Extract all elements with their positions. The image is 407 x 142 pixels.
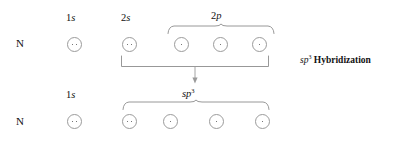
- electron-dot: [72, 44, 74, 46]
- electron-dot: [131, 121, 133, 123]
- orbital-circle-2py: [213, 37, 228, 52]
- orbital-label-1s-bottom-letter: s: [71, 89, 75, 100]
- electron-dot: [131, 44, 133, 46]
- orbital-label-1s-top-letter: s: [71, 12, 75, 23]
- hybridization-caption-word: Hybridization: [311, 55, 370, 65]
- electron-dot: [72, 121, 74, 123]
- electron-dot: [170, 121, 172, 123]
- orbital-label-1s-bottom: 1s: [66, 89, 75, 100]
- orbital-circle-1s-bottom: [67, 114, 82, 129]
- brace-sp3: [122, 100, 270, 110]
- orbital-circle-2pz: [252, 37, 267, 52]
- orbital-circle-2s-top: [122, 37, 137, 52]
- group-label-2p-letter: p: [216, 10, 221, 21]
- orbital-hybridization-diagram: 1s 2s 2p N: [0, 0, 407, 142]
- group-label-sp3-superscript: 3: [191, 87, 194, 94]
- electron-dot: [127, 44, 129, 46]
- electron-dot: [259, 44, 261, 46]
- electron-dot: [216, 121, 218, 123]
- electron-dot: [181, 44, 183, 46]
- orbital-label-1s-top: 1s: [66, 12, 75, 23]
- orbital-circle-2px: [174, 37, 189, 52]
- electron-dot: [76, 121, 78, 123]
- orbital-label-2s-top-letter: s: [126, 12, 130, 23]
- atom-symbol-top: N: [16, 37, 24, 49]
- electron-dot: [220, 44, 222, 46]
- orbital-label-2s-top: 2s: [121, 12, 130, 23]
- orbital-circle-sp3-d: [255, 114, 270, 129]
- atom-symbol-bottom: N: [16, 115, 24, 127]
- brace-2p: [167, 24, 275, 34]
- electron-dot: [262, 121, 264, 123]
- orbital-circle-sp3-a: [122, 114, 137, 129]
- group-label-2p: 2p: [211, 10, 222, 21]
- orbital-circle-sp3-b: [163, 114, 178, 129]
- group-label-sp3: sp3: [182, 88, 195, 99]
- electron-dot: [76, 44, 78, 46]
- hybridization-caption: sp3 Hybridization: [300, 55, 371, 65]
- orbital-circle-1s-top: [67, 37, 82, 52]
- electron-dot: [127, 121, 129, 123]
- hybridization-arrow: [190, 66, 200, 88]
- orbital-circle-sp3-c: [209, 114, 224, 129]
- group-label-sp3-symbol: sp: [182, 88, 191, 99]
